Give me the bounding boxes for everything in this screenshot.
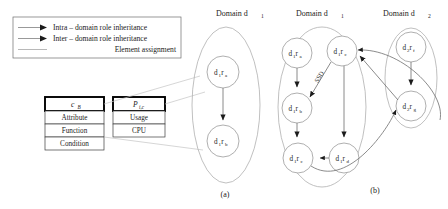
node-label: d [335,155,339,163]
diagram-a-domain-title: Domain d [216,9,248,18]
node-label: d [214,69,218,77]
caption-b: (b) [370,186,380,195]
legend-item-label: Element assignment [115,45,177,54]
node-b-d1-rb: d 1 r b [282,93,312,123]
assignment-line [165,92,205,104]
node-b-d1-rc-upper: d 1 r c [327,36,357,66]
class-table: c B Attribute Function Condition [45,97,104,150]
legend: Intra – domain role inheritance Inter – … [13,17,181,58]
diagram-a-domain-boundary [192,27,260,183]
figure-root: Intra – domain role inheritance Inter – … [0,0,448,209]
node-label: d [288,105,292,113]
node-b-d2-rg: d 2 r g [396,91,426,121]
ssd-label: SSD [313,70,325,84]
diagram-a-domain-title-subscript: 1 [261,13,264,19]
node-label: d [402,103,406,111]
diagram-a: Domain d 1 d 1 r a d 1 r b (a) [192,9,264,199]
permission-table: P i,c Usage CPU [113,97,165,137]
node-label: d [333,48,337,56]
assignment-line [104,137,203,150]
diagram-b-domain1-title: Domain d [296,9,328,18]
node-label: d [402,44,406,52]
diagram-canvas: Intra – domain role inheritance Inter – … [0,0,448,209]
permission-table-header-subscript: i,c [139,104,145,110]
edge-inter-rc-to-rg [311,110,396,171]
node-label: d [289,155,293,163]
class-table-cell-label: Function [62,127,88,135]
node-b-d1-rd: d 1 r d [329,143,359,173]
permission-table-cell-label: Usage [130,114,148,122]
legend-item-label: Inter – domain role inheritance [53,34,148,43]
node-b-d2-rf: d 2 r f [396,32,426,62]
node-label: d [288,50,292,58]
node-label: d [214,138,218,146]
class-table-cell-label: Condition [60,140,89,148]
node-d1-rb: d 1 r b [207,125,239,157]
caption-a: (a) [221,190,230,199]
inter-domain-edges: (b) [311,50,441,195]
legend-item-label: Intra – domain role inheritance [53,23,148,32]
class-table-header-cell [45,97,104,111]
node-b-d1-ra: d 1 r a [282,38,312,68]
diagram-b-domain1-title-subscript: 1 [341,13,344,19]
class-table-cell-label: Attribute [62,114,88,122]
diagram-b-domain1: Domain d 1 d 1 r a d 1 r c d 1 r b [278,9,366,187]
diagram-b-domain2-title-subscript: 2 [428,13,431,19]
permission-table-header-label: P [132,100,138,109]
node-b-d1-rc: d 1 r c [283,143,313,173]
diagram-b-domain2-title: Domain d [383,9,415,18]
permission-table-cell-label: CPU [132,127,147,135]
node-d1-ra: d 1 r a [207,56,239,88]
